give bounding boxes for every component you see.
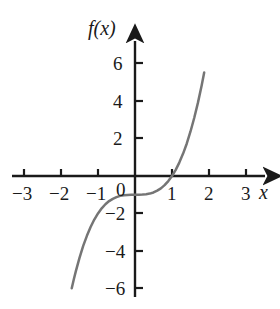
plot-canvas <box>0 0 280 309</box>
y-tick-label--4: −4 <box>105 242 125 261</box>
x-tick-label--3: −3 <box>12 184 32 203</box>
x-tick-label-2: 2 <box>204 184 214 203</box>
x-tick-label-3: 3 <box>241 184 251 203</box>
x-axis-title: x <box>259 182 268 202</box>
y-tick-label-6: 6 <box>113 54 123 73</box>
y-tick-label-4: 4 <box>113 92 123 111</box>
function-graph-figure: f(x) x 0 −3 −2 −1 1 2 3 6 4 2 −2 −4 −6 <box>0 0 280 309</box>
x-tick-label--2: −2 <box>49 184 69 203</box>
x-tick-label--1: −1 <box>86 184 106 203</box>
x-tick-label-1: 1 <box>167 184 177 203</box>
y-axis-title: f(x) <box>88 18 116 38</box>
y-tick-label-2: 2 <box>113 129 123 148</box>
origin-label: 0 <box>116 180 126 199</box>
function-curve <box>72 72 204 288</box>
y-tick-label--6: −6 <box>105 279 125 298</box>
y-tick-label--2: −2 <box>105 204 125 223</box>
